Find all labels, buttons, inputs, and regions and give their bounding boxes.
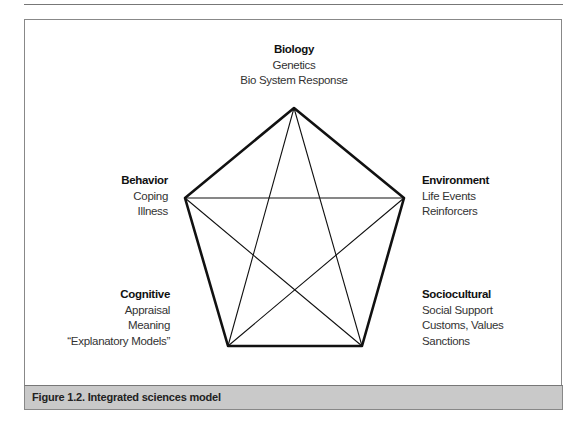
node-sociocultural: Sociocultural Social Support Customs, Va…	[422, 287, 562, 349]
node-line: Sanctions	[422, 334, 562, 350]
node-environment: Environment Life Events Reinforcers	[422, 173, 552, 220]
node-line: Appraisal	[30, 303, 170, 319]
node-title: Behavior	[48, 173, 168, 189]
node-line: Genetics	[194, 58, 394, 74]
node-behavior: Behavior Coping Illness	[48, 173, 168, 220]
node-biology: Biology Genetics Bio System Response	[194, 42, 394, 89]
figure-caption: Figure 1.2. Integrated sciences model	[32, 391, 221, 403]
node-line: Reinforcers	[422, 204, 552, 220]
node-line: Customs, Values	[422, 318, 562, 334]
node-title: Sociocultural	[422, 287, 562, 303]
node-line: Social Support	[422, 303, 562, 319]
node-line: Meaning	[30, 318, 170, 334]
node-line: “Explanatory Models”	[30, 334, 170, 350]
node-cognitive: Cognitive Appraisal Meaning “Explanatory…	[30, 287, 170, 349]
node-line: Illness	[48, 204, 168, 220]
node-title: Biology	[194, 42, 394, 58]
node-line: Life Events	[422, 189, 552, 205]
figure-caption-bar: Figure 1.2. Integrated sciences model	[24, 385, 563, 410]
node-title: Environment	[422, 173, 552, 189]
node-line: Bio System Response	[194, 73, 394, 89]
node-title: Cognitive	[30, 287, 170, 303]
node-line: Coping	[48, 189, 168, 205]
pentagon-outline	[185, 108, 404, 346]
